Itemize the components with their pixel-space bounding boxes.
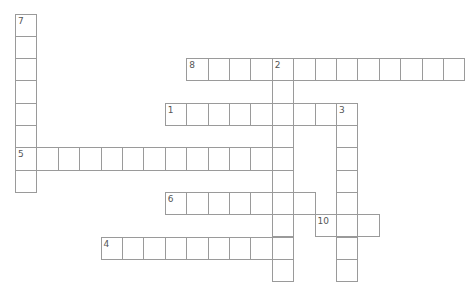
crossword-cell[interactable] <box>336 58 358 81</box>
crossword-cell[interactable] <box>272 259 294 282</box>
crossword-cell[interactable] <box>229 147 251 170</box>
crossword-cell[interactable] <box>272 192 294 215</box>
crossword-cell[interactable] <box>58 147 80 170</box>
clue-number: 1 <box>168 105 174 115</box>
crossword-cell[interactable] <box>122 147 144 170</box>
clue-number: 8 <box>189 60 195 70</box>
crossword-cell[interactable] <box>336 214 358 237</box>
crossword-cell[interactable] <box>186 192 208 215</box>
crossword-cell[interactable] <box>336 259 358 282</box>
crossword-grid: 7582136104 <box>0 0 476 293</box>
clue-number: 2 <box>275 60 281 70</box>
crossword-cell[interactable] <box>15 170 37 193</box>
crossword-cell[interactable] <box>208 192 230 215</box>
crossword-cell[interactable] <box>229 192 251 215</box>
crossword-cell[interactable] <box>357 214 379 237</box>
clue-number: 4 <box>104 239 110 249</box>
crossword-cell[interactable] <box>315 103 337 126</box>
crossword-cell[interactable] <box>143 147 165 170</box>
crossword-cell[interactable] <box>272 147 294 170</box>
crossword-cell[interactable] <box>336 170 358 193</box>
crossword-cell[interactable] <box>336 147 358 170</box>
crossword-cell[interactable] <box>208 237 230 260</box>
crossword-cell[interactable] <box>229 237 251 260</box>
crossword-cell[interactable] <box>315 58 337 81</box>
crossword-cell[interactable] <box>272 125 294 148</box>
crossword-cell[interactable]: 10 <box>315 214 337 237</box>
crossword-cell[interactable] <box>272 170 294 193</box>
crossword-cell[interactable] <box>272 237 294 260</box>
crossword-cell[interactable] <box>272 80 294 103</box>
crossword-cell[interactable] <box>208 103 230 126</box>
crossword-cell[interactable] <box>293 58 315 81</box>
clue-number: 3 <box>339 105 345 115</box>
crossword-cell[interactable]: 5 <box>15 147 37 170</box>
crossword-cell[interactable] <box>293 103 315 126</box>
crossword-cell[interactable] <box>15 80 37 103</box>
clue-number: 5 <box>18 149 24 159</box>
crossword-cell[interactable]: 7 <box>15 14 37 37</box>
crossword-cell[interactable] <box>250 237 272 260</box>
crossword-cell[interactable]: 3 <box>336 103 358 126</box>
crossword-cell[interactable] <box>272 214 294 237</box>
crossword-cell[interactable] <box>293 192 315 215</box>
crossword-cell[interactable]: 2 <box>272 58 294 81</box>
crossword-cell[interactable] <box>165 147 187 170</box>
crossword-cell[interactable] <box>186 147 208 170</box>
crossword-cell[interactable] <box>422 58 444 81</box>
crossword-cell[interactable]: 6 <box>165 192 187 215</box>
clue-number: 10 <box>318 216 329 226</box>
crossword-cell[interactable]: 4 <box>101 237 123 260</box>
crossword-cell[interactable] <box>186 237 208 260</box>
crossword-cell[interactable] <box>250 103 272 126</box>
crossword-cell[interactable] <box>336 237 358 260</box>
clue-number: 7 <box>18 16 24 26</box>
crossword-cell[interactable] <box>15 58 37 81</box>
crossword-cell[interactable] <box>250 192 272 215</box>
crossword-cell[interactable] <box>229 58 251 81</box>
crossword-cell[interactable] <box>443 58 465 81</box>
crossword-cell[interactable] <box>229 103 251 126</box>
crossword-cell[interactable] <box>272 103 294 126</box>
crossword-cell[interactable] <box>208 147 230 170</box>
crossword-cell[interactable] <box>15 36 37 59</box>
crossword-cell[interactable] <box>122 237 144 260</box>
crossword-cell[interactable]: 1 <box>165 103 187 126</box>
crossword-cell[interactable] <box>336 125 358 148</box>
crossword-cell[interactable] <box>379 58 401 81</box>
crossword-cell[interactable] <box>143 237 165 260</box>
crossword-cell[interactable] <box>186 103 208 126</box>
crossword-cell[interactable] <box>250 58 272 81</box>
crossword-cell[interactable] <box>250 147 272 170</box>
crossword-cell[interactable] <box>208 58 230 81</box>
crossword-cell[interactable] <box>15 103 37 126</box>
crossword-cell[interactable] <box>79 147 101 170</box>
crossword-cell[interactable] <box>165 237 187 260</box>
clue-number: 6 <box>168 194 174 204</box>
crossword-cell[interactable] <box>36 147 58 170</box>
crossword-cell[interactable] <box>15 125 37 148</box>
crossword-cell[interactable] <box>400 58 422 81</box>
crossword-cell[interactable] <box>357 58 379 81</box>
crossword-cell[interactable]: 8 <box>186 58 208 81</box>
crossword-cell[interactable] <box>101 147 123 170</box>
crossword-cell[interactable] <box>336 192 358 215</box>
